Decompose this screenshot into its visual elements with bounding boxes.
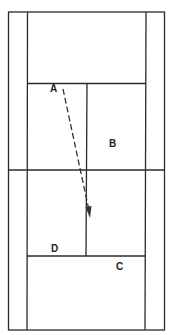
tennis-court-diagram xyxy=(0,0,170,335)
dashed-path-line xyxy=(63,89,89,208)
center-service-line xyxy=(86,84,87,257)
label-d: D xyxy=(51,244,58,254)
label-c: C xyxy=(116,262,123,272)
label-a: A xyxy=(50,84,57,94)
left-singles-sideline xyxy=(27,12,28,330)
right-singles-sideline xyxy=(145,12,146,330)
label-b: B xyxy=(109,139,116,149)
